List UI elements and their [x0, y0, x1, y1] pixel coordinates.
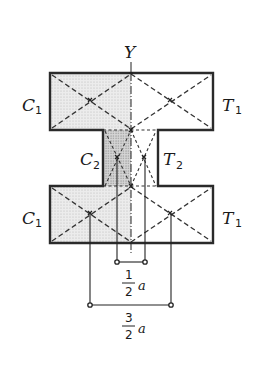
svg-text:T: T — [222, 208, 235, 228]
svg-text:3: 3 — [125, 311, 133, 325]
svg-text:a: a — [138, 321, 146, 336]
label-web-left: C 2 — [80, 149, 100, 172]
svg-text:1: 1 — [35, 104, 42, 117]
svg-text:2: 2 — [93, 159, 100, 172]
i-beam-section-diagram: Y C 1 T 1 C 2 T 2 C 1 T 1 1 2 a 3 2 a — [0, 0, 266, 365]
svg-text:1: 1 — [235, 217, 242, 230]
svg-text:a: a — [138, 278, 146, 293]
label-bottom-left: C 1 — [22, 208, 42, 230]
svg-text:T: T — [163, 149, 176, 169]
label-web-right: T 2 — [163, 149, 183, 172]
svg-text:1: 1 — [235, 104, 242, 117]
svg-text:2: 2 — [125, 285, 133, 299]
label-top-left: C 1 — [22, 95, 42, 117]
dimension-label-three-halves-a: 3 2 a — [122, 311, 146, 342]
svg-text:1: 1 — [125, 268, 133, 282]
dimension-label-half-a: 1 2 a — [122, 268, 146, 299]
svg-text:1: 1 — [35, 217, 42, 230]
svg-text:C: C — [80, 149, 93, 169]
svg-text:T: T — [222, 95, 235, 115]
label-top-right: T 1 — [222, 95, 242, 117]
y-axis-label: Y — [124, 42, 137, 62]
svg-text:C: C — [22, 208, 35, 228]
svg-text:C: C — [22, 95, 35, 115]
svg-text:2: 2 — [125, 328, 133, 342]
label-bottom-right: T 1 — [222, 208, 242, 230]
svg-text:2: 2 — [176, 159, 183, 172]
